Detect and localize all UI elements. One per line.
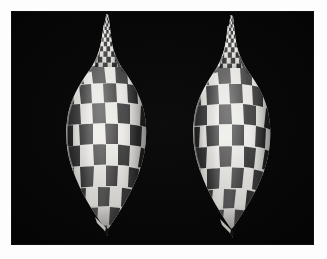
shell-scene bbox=[11, 11, 314, 245]
figure-root: Grayscale photograph showing two cone-sh… bbox=[0, 0, 327, 259]
photograph-plate bbox=[11, 11, 314, 245]
film-grain-overlay bbox=[11, 11, 314, 245]
